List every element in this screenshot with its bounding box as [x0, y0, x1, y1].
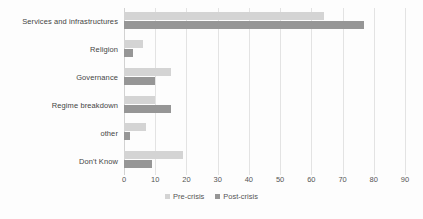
x-tick-label: 70 — [338, 175, 346, 184]
bar-pre-crisis — [124, 96, 155, 104]
bar-post-crisis — [124, 132, 130, 140]
bar-group — [124, 119, 405, 147]
x-axis: 0102030405060708090 — [124, 175, 405, 189]
legend-swatch-icon — [215, 194, 220, 199]
bar-group — [124, 36, 405, 64]
bar-pre-crisis — [124, 40, 143, 48]
chart-legend: Pre-crisisPost-crisis — [0, 192, 423, 201]
bar-group — [124, 92, 405, 120]
category-label: Regime breakdown — [0, 92, 118, 120]
bar-post-crisis — [124, 21, 364, 29]
legend-label: Pre-crisis — [173, 192, 204, 201]
plot-area — [124, 8, 405, 175]
bar-chart: Services and infrastructuresReligionGove… — [0, 0, 423, 219]
legend-label: Post-crisis — [223, 192, 258, 201]
x-tick-label: 10 — [151, 175, 159, 184]
x-tick-label: 60 — [307, 175, 315, 184]
category-label: Governance — [0, 64, 118, 92]
x-tick-label: 0 — [122, 175, 126, 184]
category-label: other — [0, 119, 118, 147]
x-tick-label: 40 — [245, 175, 253, 184]
x-tick-label: 30 — [213, 175, 221, 184]
bar-group — [124, 64, 405, 92]
bar-group — [124, 147, 405, 175]
x-tick-label: 80 — [370, 175, 378, 184]
bar-group — [124, 8, 405, 36]
bar-post-crisis — [124, 77, 155, 85]
bar-post-crisis — [124, 105, 171, 113]
legend-swatch-icon — [165, 194, 170, 199]
legend-item[interactable]: Post-crisis — [215, 192, 258, 201]
x-tick-label: 50 — [276, 175, 284, 184]
gridline-90 — [405, 8, 406, 175]
legend-item[interactable]: Pre-crisis — [165, 192, 204, 201]
category-axis: Services and infrastructuresReligionGove… — [0, 8, 118, 175]
bar-post-crisis — [124, 49, 133, 57]
x-tick-label: 20 — [182, 175, 190, 184]
bar-pre-crisis — [124, 151, 183, 159]
category-label: Don't Know — [0, 147, 118, 175]
bar-rows — [124, 8, 405, 175]
category-label: Services and infrastructures — [0, 8, 118, 36]
category-label: Religion — [0, 36, 118, 64]
x-tick-label: 90 — [401, 175, 409, 184]
bar-pre-crisis — [124, 68, 171, 76]
bar-post-crisis — [124, 160, 152, 168]
bar-pre-crisis — [124, 123, 146, 131]
bar-pre-crisis — [124, 12, 324, 20]
